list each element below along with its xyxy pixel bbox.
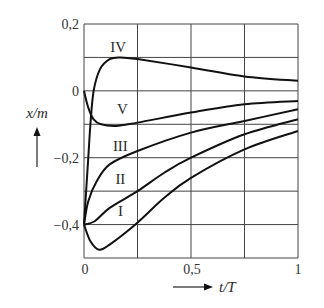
y-tick-label: −0,4 — [54, 218, 79, 233]
chart: IVVIIIIII 0,2 0 −0,2 −0,4 0 0,5 1 x/m t/… — [0, 0, 324, 308]
curve-label: II — [115, 171, 125, 187]
arrow-right-icon — [173, 284, 213, 291]
y-tick-label: 0,2 — [62, 17, 80, 32]
curve-labels: IVVIIIIII — [110, 39, 128, 219]
x-tick-label: 0 — [82, 262, 89, 277]
x-tick-label: 1 — [295, 262, 302, 277]
y-tick-label: −0,2 — [54, 151, 79, 166]
arrow-up-icon — [34, 127, 41, 167]
curve-label: IV — [110, 39, 126, 55]
y-tick-label: 0 — [72, 84, 79, 99]
curve-label: III — [113, 138, 128, 154]
x-tick-label: 0,5 — [183, 262, 201, 277]
curve-label: V — [117, 101, 128, 117]
x-axis-label: t/T — [219, 279, 237, 295]
curve-label: I — [118, 203, 123, 219]
y-axis-label: x/m — [25, 105, 48, 121]
